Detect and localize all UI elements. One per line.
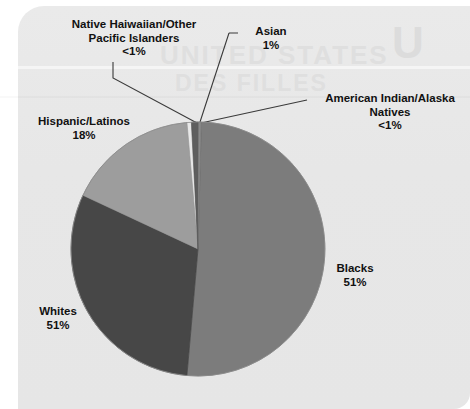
leader-line-aian	[201, 100, 307, 123]
label-blacks: Blacks 51%	[318, 262, 392, 289]
label-asian-line1: Asian	[240, 25, 302, 39]
label-blacks-line1: Blacks	[318, 262, 392, 276]
label-hispanic-latinos: Hispanic/Latinos 18%	[14, 115, 154, 142]
label-blacks-value: 51%	[318, 276, 392, 290]
label-aian-value: <1%	[310, 119, 470, 133]
label-american-indian-alaska-natives: American Indian/Alaska Natives <1%	[310, 92, 470, 133]
label-nhpi-value: <1%	[46, 45, 222, 59]
pie-chart-svg	[0, 0, 470, 409]
label-native-hawaiian-pacific-islanders: Native Haiwaiian/Other Pacific Islanders…	[46, 18, 222, 59]
label-nhpi-line1: Native Haiwaiian/Other	[46, 18, 222, 32]
label-asian-value: 1%	[240, 39, 302, 53]
pie-slices-group	[71, 122, 325, 376]
label-hispanic-line1: Hispanic/Latinos	[14, 115, 154, 129]
label-whites-line1: Whites	[20, 305, 96, 319]
label-hispanic-value: 18%	[14, 129, 154, 143]
leader-line-nhpi	[113, 62, 197, 123]
label-asian: Asian 1%	[240, 25, 302, 52]
label-aian-line1: American Indian/Alaska	[310, 92, 470, 106]
label-whites-value: 51%	[20, 319, 96, 333]
pie-slice-blacks[interactable]	[187, 122, 325, 376]
label-nhpi-line2: Pacific Islanders	[46, 32, 222, 46]
label-aian-line2: Natives	[310, 106, 470, 120]
pie-chart-figure: Native Haiwaiian/Other Pacific Islanders…	[0, 0, 470, 409]
label-whites: Whites 51%	[20, 305, 96, 332]
